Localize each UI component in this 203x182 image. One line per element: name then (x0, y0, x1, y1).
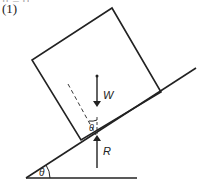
reaction-label: R (103, 145, 111, 157)
incline-angle-label: θ (39, 167, 45, 178)
weight-label: W (103, 89, 115, 101)
incline-line (26, 68, 196, 178)
incline-angle-arc (46, 165, 50, 178)
block-angle-label: θ (89, 123, 94, 133)
block-angle-arc (89, 120, 97, 121)
incline-diagram: W R θ θ (0, 0, 203, 182)
